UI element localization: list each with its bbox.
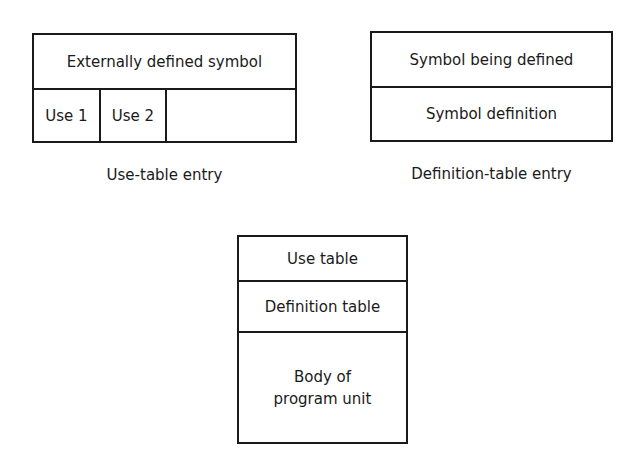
symbol-definition-field: Symbol definition (372, 88, 611, 140)
definition-table-entry-caption: Definition-table entry (370, 165, 613, 183)
program-body-section: Body of program unit (239, 333, 406, 442)
program-unit-box: Use table Definition table Body of progr… (237, 235, 408, 444)
symbol-being-defined-field: Symbol being defined (372, 33, 611, 86)
definition-table-section: Definition table (239, 282, 406, 331)
use-1-cell: Use 1 (34, 90, 99, 141)
use-table-section: Use table (239, 237, 406, 280)
definition-table-entry-box: Symbol being defined Symbol definition (370, 31, 613, 142)
empty-use-cell (167, 90, 295, 141)
externally-defined-symbol-field: Externally defined symbol (34, 35, 295, 88)
use-table-entry-caption: Use-table entry (32, 166, 297, 184)
use-2-cell: Use 2 (101, 90, 165, 141)
use-table-entry-box: Externally defined symbol Use 1 Use 2 (32, 33, 297, 143)
